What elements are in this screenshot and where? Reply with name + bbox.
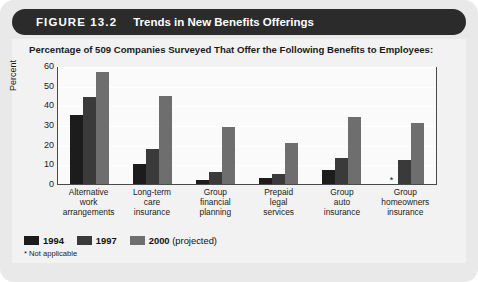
legend-label-note: (projected) (170, 235, 217, 246)
chart-panel: Percentage of 509 Companies Surveyed Tha… (12, 39, 466, 263)
legend-item: 1994 (24, 235, 64, 246)
x-axis-label-line: planning (184, 207, 246, 217)
x-axis-label-line: Alternative (58, 187, 120, 197)
bar (411, 123, 424, 184)
legend-swatch (130, 236, 145, 245)
y-axis-tick-label: 20 (34, 141, 54, 150)
x-axis-label-line: Group (184, 187, 246, 197)
bar (348, 117, 361, 184)
bar (146, 149, 159, 184)
bar (83, 97, 96, 184)
bar-groups: * (58, 68, 436, 184)
legend-label: 1997 (96, 235, 117, 246)
x-axis-label-line: services (248, 207, 310, 217)
bar-group (322, 68, 361, 184)
chart-subtitle: Percentage of 509 Companies Surveyed Tha… (29, 44, 433, 55)
x-axis-label-line: financial (184, 197, 246, 207)
x-axis-label-line: homeowners (374, 197, 436, 207)
figure-title: Trends in New Benefits Offerings (133, 16, 314, 28)
x-axis-label-line: care (121, 197, 183, 207)
bar (159, 96, 172, 185)
x-axis-label-line: auto (311, 197, 373, 207)
x-axis-label-line: arrangements (58, 207, 120, 217)
bar (335, 158, 348, 184)
x-axis-category-label: Grouphomeownersinsurance (374, 187, 436, 217)
x-axis-label-line: insurance (374, 207, 436, 217)
x-axis-label-line: Prepaid (248, 187, 310, 197)
y-axis-tick-label: 30 (34, 121, 54, 130)
x-axis-label-line: Group (311, 187, 373, 197)
bar (398, 160, 411, 184)
chart-legend: 199419972000 (projected) (24, 235, 223, 246)
plot-area: * (57, 67, 437, 185)
x-axis-label-line: legal (248, 197, 310, 207)
bar (272, 174, 285, 184)
y-axis-tick-label: 60 (34, 62, 54, 71)
x-axis-category-label: Alternativeworkarrangements (58, 187, 120, 217)
x-axis-label-line: work (58, 197, 120, 207)
bar-group: * (385, 68, 424, 184)
bar (196, 180, 209, 184)
y-axis-tick-label: 40 (34, 101, 54, 110)
y-axis-tick-label: 10 (34, 160, 54, 169)
bar-group (259, 68, 298, 184)
legend-swatch (24, 236, 39, 245)
x-axis-category-label: Groupfinancialplanning (184, 187, 246, 217)
legend-label: 2000 (projected) (149, 235, 217, 246)
figure-number: FIGURE 13.2 (36, 16, 117, 28)
x-axis-label-line: Long-term (121, 187, 183, 197)
legend-label: 1994 (43, 235, 64, 246)
x-axis-category-label: Prepaidlegalservices (248, 187, 310, 217)
chart-footnote: * Not applicable (24, 249, 77, 258)
bar (259, 178, 272, 184)
x-axis-label-line: insurance (121, 207, 183, 217)
x-axis-category-labels: AlternativeworkarrangementsLong-termcare… (57, 187, 437, 217)
bar-group (133, 68, 172, 184)
y-axis-tick-label: 0 (34, 180, 54, 189)
bar (285, 143, 298, 184)
bar-not-applicable: * (385, 68, 398, 184)
bar (70, 115, 83, 184)
y-axis-tick-labels: 0102030405060 (30, 67, 54, 185)
legend-item: 2000 (projected) (130, 235, 217, 246)
bar (96, 72, 109, 184)
figure-header-bar: FIGURE 13.2 Trends in New Benefits Offer… (12, 9, 466, 35)
not-applicable-asterisk: * (390, 177, 394, 183)
x-axis-label-line: insurance (311, 207, 373, 217)
x-axis-category-label: Long-termcareinsurance (121, 187, 183, 217)
legend-item: 1997 (77, 235, 117, 246)
figure-card: FIGURE 13.2 Trends in New Benefits Offer… (0, 0, 478, 282)
bar (209, 172, 222, 184)
bar-group (70, 68, 109, 184)
legend-swatch (77, 236, 92, 245)
bar-group (196, 68, 235, 184)
y-axis-title: Percent (8, 60, 18, 91)
bar (322, 170, 335, 184)
bar (133, 164, 146, 184)
y-axis-tick-label: 50 (34, 82, 54, 91)
x-axis-category-label: Groupautoinsurance (311, 187, 373, 217)
bar (222, 127, 235, 184)
x-axis-label-line: Group (374, 187, 436, 197)
